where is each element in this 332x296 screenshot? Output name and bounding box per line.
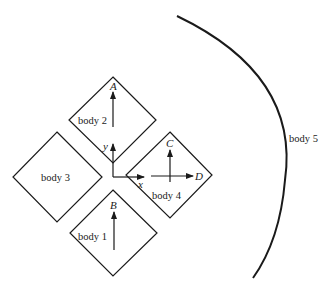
body-1: B body 1 <box>70 190 157 276</box>
point-A-label: A <box>109 80 117 92</box>
diagram-canvas: A body 2 body 3 C D body 4 B body 1 y x … <box>0 0 332 296</box>
body-4: C D body 4 <box>126 132 212 218</box>
coordinate-axes: y x <box>102 140 144 190</box>
x-axis-label: x <box>137 178 143 190</box>
body-2-label: body 2 <box>78 115 107 126</box>
y-axis-label: y <box>102 140 108 152</box>
point-C-label: C <box>166 137 174 149</box>
body-5: body 5 <box>177 16 318 278</box>
body-1-label: body 1 <box>78 231 107 242</box>
point-B-label: B <box>110 199 117 211</box>
body-4-label: body 4 <box>152 190 182 201</box>
body-3: body 3 <box>13 132 102 222</box>
point-D-label: D <box>194 170 203 182</box>
body-5-label: body 5 <box>289 133 318 144</box>
body-3-label: body 3 <box>41 172 70 183</box>
